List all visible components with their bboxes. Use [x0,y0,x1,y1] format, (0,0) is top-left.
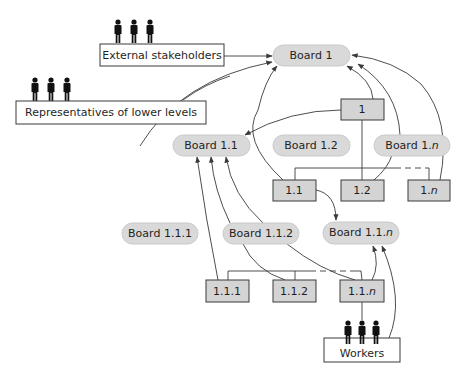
unit-1-label: 1 [359,103,366,116]
unit-1-1-2-label: 1.1.2 [280,285,308,298]
unit-1-n: 1.n [408,180,450,201]
line-board112-to-unit11n [287,244,355,280]
unit-1-n-label: 1.n [420,184,438,197]
board-1-label: Board 1 [290,49,333,62]
board-1-n-label: Board 1.n [385,139,438,152]
board-1: Board 1 [273,45,350,66]
unit-1-1-label: 1.1 [285,184,303,197]
arrow-unit111-to-board11 [197,157,218,280]
unit-1: 1 [341,99,384,120]
workers-group: Workers [324,320,400,362]
unit-1-1: 1.1 [273,180,316,201]
people-icon [115,19,154,43]
board-1-1-2-label: Board 1.1.2 [229,227,293,240]
unit-1-2: 1.2 [341,180,384,201]
board-1-1-1-label: Board 1.1.1 [128,227,192,240]
board-1-1-label: Board 1.1 [184,139,237,152]
arrow-unit11-to-board11n [316,190,336,220]
board-1-1-n: Board 1.1.n [323,222,399,244]
line-unit12-to-board1n [374,155,392,180]
board-1-n: Board 1.n [374,135,450,156]
board-1-1-1: Board 1.1.1 [122,223,198,244]
arrow-unit1-to-board11 [245,110,341,135]
arrow-unit11n-to-board11n [372,246,376,280]
unit-1-1-2: 1.1.2 [273,280,316,302]
arrow-board112-to-board11 [211,157,230,223]
unit-1-1-n-label: 1.1.n [348,285,376,298]
arrow-unit11-to-board11 [226,157,263,223]
board-1-1: Board 1.1 [173,135,250,156]
representatives-label: Representatives of lower levels [25,106,197,119]
arrow-unit1-to-board1 [347,66,373,99]
workers-label: Workers [340,347,385,360]
governance-diagram: External stakeholders Representatives of… [0,0,466,368]
unit-1-1-n: 1.1.n [340,280,384,302]
external-stakeholders-group: External stakeholders [100,19,224,66]
board-1-2: Board 1.2 [273,135,350,156]
board-1-1-n-label: Board 1.1.n [329,226,393,239]
external-stakeholders-label: External stakeholders [102,49,222,62]
board-1-1-2: Board 1.1.2 [223,223,299,244]
unit-1-2-label: 1.2 [353,184,371,197]
arrow-unit11-to-board1 [253,66,283,180]
unit-1-1-1: 1.1.1 [206,280,249,302]
representatives-group: Representatives of lower levels [16,77,206,124]
board-1-2-label: Board 1.2 [284,139,337,152]
unit-1-1-1-label: 1.1.1 [213,285,241,298]
line-board112-to-unit112 [243,244,285,280]
people-icon [32,77,71,101]
